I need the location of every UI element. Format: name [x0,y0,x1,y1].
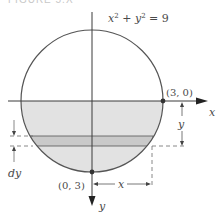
half-width-right-arrow-icon [146,182,151,186]
point-0-3-label: (0, 3) [58,180,85,191]
x-axis-label: x [209,106,216,119]
circle-equation: x2 + y2 = 9 [108,12,169,25]
dy-up-arrow-icon [12,146,16,151]
circle-diagram: x y x2 + y2 = 9 (3, 0) (0, 3) dy y [0,0,223,213]
y-axis-label: y [98,200,106,213]
dy-down-arrow-icon [12,131,16,136]
x-axis-arrow-icon [196,98,208,105]
depth-up-arrow-icon [180,102,184,107]
depth-down-arrow-icon [180,141,184,146]
point-3-0-marker [161,99,166,104]
strip-edge-guides [152,146,186,188]
depth-label: y [177,118,185,131]
y-axis-arrow-icon [89,196,96,206]
point-3-0-label: (3, 0) [166,87,193,98]
half-width-left-arrow-icon [93,182,98,186]
dy-label: dy [8,167,22,180]
point-0-3-marker [90,170,95,175]
half-width-label: x [118,178,125,191]
horizontal-strip [21,136,153,146]
